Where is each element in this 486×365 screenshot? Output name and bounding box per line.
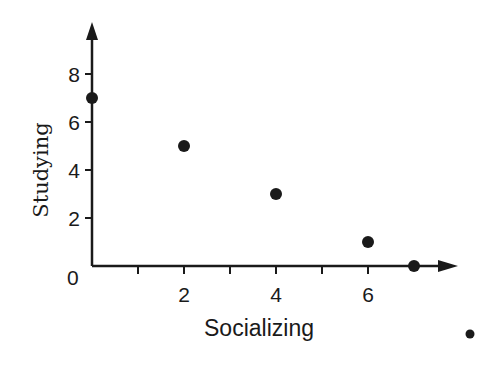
data-point (408, 260, 420, 272)
data-point (86, 92, 98, 104)
y-tick-label: 4 (68, 159, 80, 182)
axes (86, 22, 458, 272)
x-axis-title: Socializing (204, 315, 314, 341)
y-axis-arrow-icon (86, 22, 98, 40)
data-point (178, 140, 190, 152)
ticks (85, 74, 368, 274)
x-tick-label: 4 (270, 283, 282, 306)
y-tick-label: 2 (68, 207, 80, 230)
x-axis-arrow-icon (438, 260, 458, 272)
x-tick-label: 2 (178, 283, 190, 306)
y-tick-label: 8 (68, 63, 80, 86)
tick-labels: 2462468 (68, 63, 374, 306)
x-tick-label: 6 (362, 283, 374, 306)
data-point (362, 236, 374, 248)
stray-dot (466, 330, 475, 339)
data-point (270, 188, 282, 200)
y-tick-label: 6 (68, 111, 80, 134)
origin-label: 0 (67, 266, 79, 289)
y-axis-title: Studying (29, 122, 53, 217)
scatter-chart: 2462468 0 Socializing Studying (0, 0, 486, 365)
